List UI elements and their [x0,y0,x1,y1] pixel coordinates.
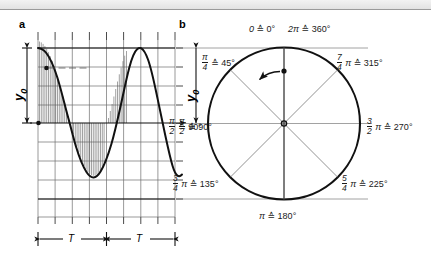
circle-label-two-pi: 2π ≙ 360° [288,24,330,34]
circle-label-three-fourths-pi: 3 4 π ≙ 135° [172,174,218,192]
cosine-curve [38,48,182,177]
circle-label-five-fourths-pi: 5 4 π ≙ 225° [341,174,387,192]
circle-label-zero: 0 ≙ 0° [249,24,275,34]
circle-label-pi-over-2: π 2 ≙ 90° [168,117,202,135]
period-label-1: T [68,233,74,244]
circle-label-three-halves-pi: 3 2 π ≙ 270° [366,117,412,135]
period-label-2: T [136,233,142,244]
circle-label-pi: π ≙ 180° [259,211,296,221]
circle-label-seven-fourths-pi: 7 4 π ≙ 315° [336,53,382,71]
rotation-arrow-icon [260,72,281,80]
circle-label-pi-over-4: π 4 ≙ 45° [201,53,235,71]
curve-hatching [40,42,127,176]
plot-top-ticks [38,32,175,40]
amplitude-label-b: y0 [183,90,201,102]
plot-bottom-ticks [38,217,175,224]
plot-grid [38,40,175,217]
origin-dot [36,121,41,126]
figure-container: a b [0,0,431,254]
amplitude-label-a: y0 [11,89,29,101]
period-brackets [38,232,175,246]
rotating-point-dot [281,68,286,73]
